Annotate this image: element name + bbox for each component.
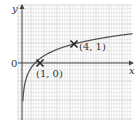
origin-label: 0 xyxy=(11,58,17,69)
chart: x y 0 (1, 0)(4, 1) xyxy=(0,0,138,123)
y-axis-label: y xyxy=(11,3,18,14)
x-axis-label: x xyxy=(129,65,135,76)
point-label: (1, 0) xyxy=(36,68,63,79)
point-label: (4, 1) xyxy=(79,41,106,52)
